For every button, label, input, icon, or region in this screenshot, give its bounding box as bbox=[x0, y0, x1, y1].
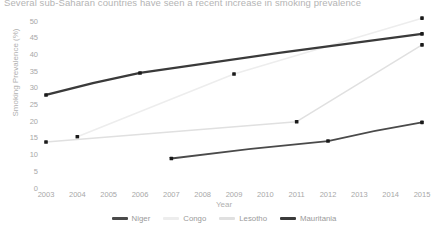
data-point-mauritania-2006 bbox=[138, 71, 142, 75]
series-line-niger bbox=[171, 122, 422, 158]
data-point-niger-2012 bbox=[326, 139, 330, 143]
data-point-lesotho-2011 bbox=[295, 120, 299, 124]
legend-item-congo[interactable]: Congo bbox=[163, 214, 206, 223]
legend-label-congo: Congo bbox=[183, 214, 206, 223]
legend-swatch-congo-icon bbox=[163, 217, 179, 219]
legend-label-niger: Niger bbox=[132, 214, 151, 223]
data-point-niger-2007 bbox=[170, 157, 174, 161]
data-point-congo-2015 bbox=[420, 16, 424, 20]
data-point-congo-2004 bbox=[76, 135, 80, 139]
legend-item-mauritania[interactable]: Mauritania bbox=[280, 214, 336, 223]
data-point-mauritania-2003 bbox=[44, 93, 48, 97]
legend-swatch-lesotho-icon bbox=[219, 217, 235, 219]
data-point-mauritania-2015 bbox=[420, 32, 424, 36]
legend-label-lesotho: Lesotho bbox=[239, 214, 267, 223]
legend-label-mauritania: Mauritania bbox=[300, 214, 336, 223]
plot-area bbox=[0, 0, 448, 229]
legend-swatch-niger-icon bbox=[112, 217, 128, 219]
series-line-mauritania bbox=[46, 34, 422, 95]
x-axis-title: Year bbox=[0, 200, 448, 209]
data-point-lesotho-2015 bbox=[420, 43, 424, 47]
legend-item-niger[interactable]: Niger bbox=[112, 214, 151, 223]
chart-legend: NigerCongoLesothoMauritania bbox=[0, 214, 448, 223]
data-point-congo-2009 bbox=[232, 72, 236, 76]
data-point-lesotho-2003 bbox=[44, 140, 48, 144]
data-point-niger-2015 bbox=[420, 121, 424, 125]
legend-item-lesotho[interactable]: Lesotho bbox=[219, 214, 267, 223]
line-chart: Several sub-Saharan countries have seen … bbox=[0, 0, 448, 229]
legend-swatch-mauritania-icon bbox=[280, 217, 296, 219]
